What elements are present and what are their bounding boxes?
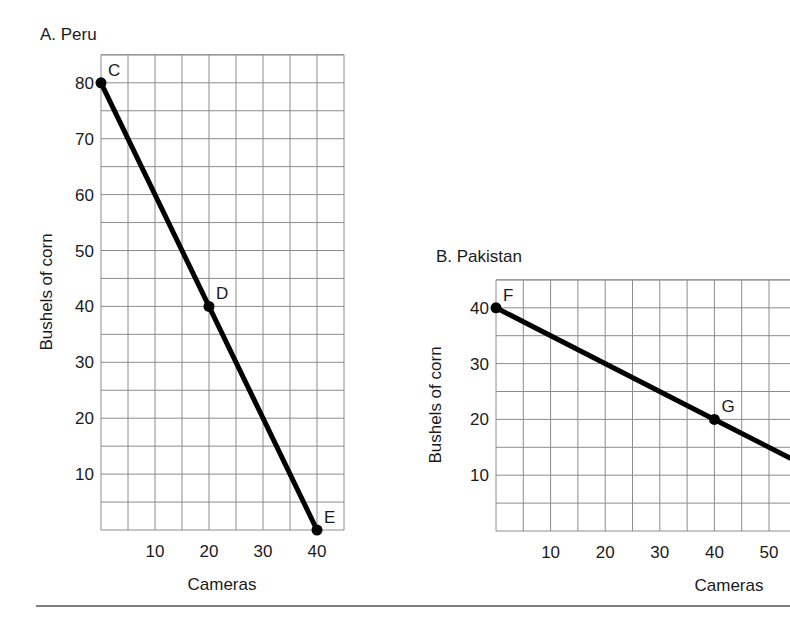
x-tick-label: 30 <box>254 542 273 561</box>
point-f-label: F <box>503 286 513 305</box>
peru-y-axis-label: Bushels of corn <box>37 233 56 350</box>
point-d-marker <box>204 301 215 312</box>
y-tick-label: 10 <box>75 465 94 484</box>
peru-chart: A. Peru 1020304050607080 10203040 CDE Ca… <box>37 25 344 594</box>
x-tick-label: 10 <box>146 542 165 561</box>
y-tick-label: 40 <box>75 297 94 316</box>
x-tick-label: 20 <box>596 543 615 562</box>
peru-title: A. Peru <box>40 25 97 44</box>
point-c-marker <box>96 77 107 88</box>
x-tick-label: 20 <box>200 542 219 561</box>
pakistan-x-ticks: 1020304050 <box>541 543 778 562</box>
pakistan-y-ticks: 10203040 <box>470 299 489 485</box>
point-e-label: E <box>324 508 335 527</box>
y-tick-label: 50 <box>75 242 94 261</box>
pakistan-ppf-line <box>496 308 790 459</box>
peru-y-ticks: 1020304050607080 <box>75 74 94 484</box>
peru-points: CDE <box>96 61 336 536</box>
peru-x-ticks: 10203040 <box>146 542 327 561</box>
point-g-label: G <box>721 397 734 416</box>
pakistan-chart: B. Pakistan 10203040 1020304050 FG Camer… <box>426 247 790 595</box>
point-g-marker <box>709 414 720 425</box>
x-tick-label: 40 <box>308 542 327 561</box>
x-tick-label: 10 <box>541 543 560 562</box>
figure: A. Peru 1020304050607080 10203040 CDE Ca… <box>0 0 790 621</box>
point-c-label: C <box>108 61 120 80</box>
x-tick-label: 50 <box>760 543 779 562</box>
y-tick-label: 20 <box>75 409 94 428</box>
y-tick-label: 60 <box>75 186 94 205</box>
peru-x-axis-label: Cameras <box>188 575 257 594</box>
x-tick-label: 30 <box>650 543 669 562</box>
pakistan-y-axis-label: Bushels of corn <box>426 346 445 463</box>
ppf-line <box>496 308 790 459</box>
y-tick-label: 20 <box>470 410 489 429</box>
y-tick-label: 80 <box>75 74 94 93</box>
y-tick-label: 30 <box>75 353 94 372</box>
y-tick-label: 30 <box>470 355 489 374</box>
pakistan-title: B. Pakistan <box>436 247 522 266</box>
pakistan-grid <box>496 280 790 531</box>
y-tick-label: 70 <box>75 130 94 149</box>
y-tick-label: 40 <box>470 299 489 318</box>
point-d-label: D <box>216 284 228 303</box>
point-f-marker <box>491 302 502 313</box>
pakistan-points: FG <box>491 286 735 425</box>
pakistan-x-axis-label: Cameras <box>695 576 764 595</box>
y-tick-label: 10 <box>470 466 489 485</box>
x-tick-label: 40 <box>705 543 724 562</box>
point-e-marker <box>312 525 323 536</box>
